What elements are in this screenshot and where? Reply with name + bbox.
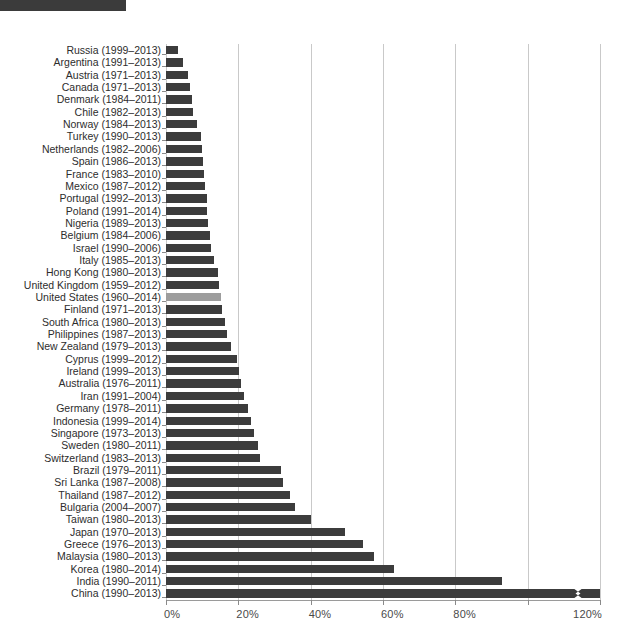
tick-40 [311, 600, 312, 605]
chart-row: Poland (1991–2014) [0, 205, 628, 217]
chart-row: United States (1960–2014) [0, 291, 628, 303]
bar[interactable] [166, 219, 208, 227]
bar[interactable] [166, 58, 183, 66]
category-label: Sri Lanka (1987–2008) [54, 476, 166, 488]
category-label: Spain (1986–2013) [72, 155, 166, 167]
bar[interactable] [166, 565, 394, 573]
bar[interactable] [166, 83, 190, 91]
bar[interactable] [166, 132, 201, 140]
bar[interactable] [166, 268, 218, 276]
chart-row: Sri Lanka (1987–2008) [0, 476, 628, 488]
bar[interactable] [166, 503, 295, 511]
bar[interactable] [166, 355, 237, 363]
bar[interactable] [166, 429, 254, 437]
tick-0 [166, 600, 167, 605]
chart-row: Cyprus (1999–2012) [0, 353, 628, 365]
bar[interactable] [166, 194, 207, 202]
bar[interactable] [166, 589, 600, 597]
bar[interactable] [166, 491, 290, 499]
category-label: Norway (1984–2013) [63, 118, 166, 130]
bar[interactable] [166, 182, 205, 190]
bar[interactable] [166, 305, 222, 313]
category-label: Sweden (1980–2011) [61, 439, 166, 451]
bar[interactable] [166, 417, 251, 425]
chart-row: Nigeria (1989–2013) [0, 217, 628, 229]
category-label: Denmark (1984–2011) [57, 93, 166, 105]
bar[interactable] [166, 256, 214, 264]
bar[interactable] [166, 552, 374, 560]
chart-row: Korea (1980–2014) [0, 563, 628, 575]
bar[interactable] [166, 454, 260, 462]
chart-row: Italy (1985–2013) [0, 254, 628, 266]
chart-row: Russia (1999–2013) [0, 44, 628, 56]
bar[interactable] [166, 379, 241, 387]
chart-row: Ireland (1999–2013) [0, 365, 628, 377]
category-label: Portugal (1992–2013) [59, 192, 166, 204]
chart-row: Argentina (1991–2013) [0, 56, 628, 68]
bar[interactable] [166, 71, 188, 79]
bar[interactable] [166, 46, 178, 54]
bar[interactable] [166, 515, 311, 523]
bar[interactable] [166, 244, 211, 252]
bar[interactable] [166, 281, 219, 289]
chart-row: Turkey (1990–2013) [0, 130, 628, 142]
category-label: Germany (1978–2011) [56, 402, 166, 414]
category-label: Italy (1985–2013) [79, 254, 166, 266]
bar[interactable] [166, 145, 202, 153]
bar[interactable] [166, 330, 227, 338]
chart-row: Hong Kong (1980–2013) [0, 266, 628, 278]
category-label: Turkey (1990–2013) [67, 130, 166, 142]
category-label: Cyprus (1999–2012) [65, 353, 166, 365]
chart-row: Taiwan (1980–2013) [0, 513, 628, 525]
chart-row: Greece (1976–2013) [0, 538, 628, 550]
bar[interactable] [166, 577, 502, 585]
category-label: South Africa (1980–2013) [42, 316, 166, 328]
bar[interactable] [166, 466, 281, 474]
chart-row: Canada (1971–2013) [0, 81, 628, 93]
bar[interactable] [166, 404, 248, 412]
tick-120 [600, 600, 601, 605]
category-label: Japan (1970–2013) [70, 526, 166, 538]
chart-figure: 0%20%40%60%80%120% Russia (1999–2013)Arg… [0, 22, 628, 629]
bar[interactable] [166, 108, 193, 116]
chart-row: France (1983–2010) [0, 168, 628, 180]
bar[interactable] [166, 170, 204, 178]
category-label: Taiwan (1980–2013) [66, 513, 166, 525]
bar[interactable] [166, 392, 244, 400]
category-label: France (1983–2010) [66, 168, 166, 180]
category-label: China (1990–2013) [71, 587, 166, 599]
bar[interactable] [166, 231, 210, 239]
category-label: Indonesia (1999–2014) [53, 415, 166, 427]
bar[interactable] [166, 157, 203, 165]
bar[interactable] [166, 95, 192, 103]
tick-label-120: 120% [573, 608, 602, 620]
bar[interactable] [166, 478, 283, 486]
bar[interactable] [166, 318, 225, 326]
chart-row: Singapore (1973–2013) [0, 427, 628, 439]
bar[interactable] [166, 441, 258, 449]
chart-row: Finland (1971–2013) [0, 303, 628, 315]
category-label: Malaysia (1980–2013) [57, 550, 166, 562]
bar[interactable] [166, 293, 221, 301]
chart-row: Brazil (1979–2011) [0, 464, 628, 476]
chart-row: Austria (1971–2013) [0, 69, 628, 81]
bar[interactable] [166, 342, 231, 350]
category-label: Australia (1976–2011) [58, 377, 166, 389]
tick-label-80: 80% [453, 608, 476, 620]
chart-row: Portugal (1992–2013) [0, 192, 628, 204]
category-label: Philippines (1987–2013) [48, 328, 166, 340]
bar[interactable] [166, 367, 239, 375]
bar[interactable] [166, 540, 363, 548]
tick-20 [238, 600, 239, 605]
chart-row: Mexico (1987–2012) [0, 180, 628, 192]
chart-row: India (1990–2011) [0, 575, 628, 587]
category-label: Israel (1990–2006) [73, 242, 166, 254]
bar[interactable] [166, 120, 197, 128]
category-label: Switzerland (1983–2013) [44, 452, 166, 464]
bar[interactable] [166, 207, 207, 215]
chart-row: Philippines (1987–2013) [0, 328, 628, 340]
chart-row: Sweden (1980–2011) [0, 439, 628, 451]
bar[interactable] [166, 528, 345, 536]
chart-row: South Africa (1980–2013) [0, 316, 628, 328]
chart-row: Chile (1982–2013) [0, 106, 628, 118]
